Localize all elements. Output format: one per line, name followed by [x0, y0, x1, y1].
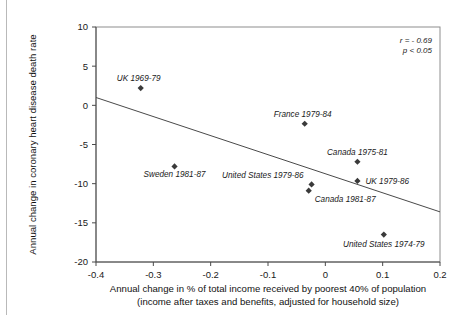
figure-container: 1050-5-10-15-20-0.4-0.3-0.2-0.100.10.2UK… [0, 0, 461, 315]
top-crop-strip [7, 0, 461, 9]
x-tick-label: 0 [323, 269, 328, 280]
data-point-marker[interactable] [302, 121, 308, 127]
x-tick-label: 0.2 [433, 269, 446, 280]
x-axis-title: Annual change in % of total income recei… [110, 283, 426, 294]
x-tick-label: 0.1 [376, 269, 389, 280]
data-point-marker[interactable] [138, 85, 144, 91]
data-point-marker[interactable] [354, 159, 360, 165]
data-point-label: Canada 1975-81 [327, 148, 388, 157]
data-point[interactable]: UK 1979-86 [354, 177, 409, 186]
data-point[interactable]: United States 1974-79 [343, 231, 425, 248]
data-point-marker[interactable] [171, 163, 177, 169]
data-point-label: France 1979-84 [274, 110, 332, 119]
data-point-label: UK 1979-86 [365, 177, 409, 186]
y-tick-label: 5 [83, 61, 88, 72]
data-point-label: Canada 1981-87 [315, 195, 376, 204]
plot-frame [96, 27, 440, 262]
data-point-marker[interactable] [381, 231, 387, 237]
y-tick-label: 10 [77, 21, 88, 32]
x-axis-title-line2: (income after taxes and benefits, adjust… [137, 296, 399, 307]
y-tick-label: 0 [83, 100, 88, 111]
data-point-marker[interactable] [308, 181, 314, 187]
data-point[interactable]: Canada 1975-81 [327, 148, 388, 165]
y-tick-label: -15 [74, 217, 88, 228]
y-tick-label: -20 [74, 256, 88, 267]
x-tick-label: -0.4 [88, 269, 104, 280]
y-tick-label: -5 [80, 139, 88, 150]
data-point-label: Sweden 1981-87 [144, 170, 206, 179]
trend-line [96, 98, 440, 212]
data-point[interactable]: UK 1969-79 [117, 74, 161, 91]
y-axis-title: Annual change in coronary heart disease … [27, 34, 38, 254]
data-point[interactable]: Sweden 1981-87 [144, 163, 206, 179]
scatter-plot: 1050-5-10-15-20-0.4-0.3-0.2-0.100.10.2UK… [0, 0, 461, 315]
data-point-marker[interactable] [354, 178, 360, 184]
x-tick-label: -0.1 [260, 269, 276, 280]
x-tick-label: -0.3 [145, 269, 161, 280]
axis-lines [96, 27, 440, 262]
y-tick-label: -10 [74, 178, 88, 189]
data-point[interactable]: Canada 1981-87 [306, 188, 377, 204]
correlation-p-label: p < 0.05 [402, 46, 433, 55]
correlation-r-label: r = - 0.69 [400, 36, 433, 45]
data-point-label: United States 1974-79 [343, 240, 425, 249]
data-point[interactable]: France 1979-84 [274, 110, 332, 127]
data-point-label: UK 1969-79 [117, 74, 161, 83]
data-point-marker[interactable] [306, 188, 312, 194]
data-point[interactable]: United States 1979-86 [222, 171, 315, 187]
data-point-label: United States 1979-86 [222, 171, 304, 180]
x-tick-label: -0.2 [202, 269, 218, 280]
